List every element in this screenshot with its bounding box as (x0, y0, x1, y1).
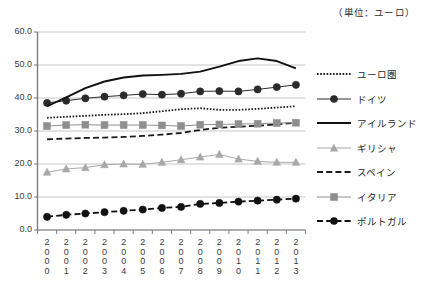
x-axis-tick-label: 2 0 0 6 (155, 238, 169, 276)
x-axis-tick-label: 2 0 0 0 (40, 238, 54, 276)
data-point-marker (177, 90, 184, 97)
series-3 (43, 150, 299, 175)
data-point-marker (82, 95, 89, 102)
data-point-marker (101, 122, 108, 129)
line-circle-key (316, 92, 352, 106)
data-point-marker (158, 204, 165, 211)
data-point-marker (159, 122, 166, 129)
data-point-marker (216, 150, 224, 157)
x-axis-tick-label: 2 0 1 1 (251, 238, 265, 276)
x-axis-tick-label: 2 0 0 5 (136, 238, 150, 276)
y-axis-tick-label: 20.0 (2, 158, 32, 168)
x-axis-tick-label: 2 0 0 2 (78, 238, 92, 276)
data-point-marker (293, 119, 300, 126)
x-axis-tick-label: 2 0 0 3 (98, 238, 112, 276)
data-point-marker (292, 195, 299, 202)
data-point-marker (120, 92, 127, 99)
thick-solid-line-key (316, 116, 352, 130)
gray-line-square-key (316, 190, 352, 204)
data-point-marker (235, 121, 242, 128)
data-point-marker (120, 160, 128, 167)
x-axis-tick-label: 2 0 0 1 (59, 238, 73, 276)
data-point-marker (44, 123, 51, 130)
data-point-marker (273, 196, 280, 203)
data-point-marker (63, 211, 70, 218)
legend-item[interactable]: アイルランド (316, 111, 421, 136)
data-point-marker (235, 198, 242, 205)
legend-item[interactable]: ギリシャ (316, 136, 421, 161)
data-point-marker (254, 86, 261, 93)
legend-item[interactable]: ドイツ (316, 87, 421, 112)
x-axis-tick-label: 2 0 1 0 (232, 238, 246, 276)
data-point-marker (82, 210, 89, 217)
legend-item-label: ユーロ圏 (357, 67, 397, 81)
data-point-marker (197, 121, 204, 128)
legend-item-label: ギリシャ (357, 141, 397, 155)
data-point-marker (178, 123, 185, 130)
legend-item[interactable]: ポルトガル (316, 209, 421, 234)
chart-legend: ユーロ圏ドイツアイルランドギリシャスペインイタリアポルトガル (316, 62, 421, 234)
data-point-marker (254, 197, 261, 204)
data-point-marker (120, 207, 127, 214)
x-axis-tick-label: 2 0 1 3 (289, 238, 303, 276)
data-point-marker (101, 93, 108, 100)
data-point-marker (292, 81, 299, 88)
data-point-marker (120, 122, 127, 129)
series-0 (47, 106, 296, 118)
data-point-marker (177, 203, 184, 210)
x-axis-tick-label: 2 0 0 9 (212, 238, 226, 276)
data-point-marker (63, 122, 70, 129)
series-1 (43, 81, 299, 106)
gray-line-triangle-key (316, 141, 352, 155)
legend-item-label: スペイン (357, 165, 396, 179)
data-point-marker (273, 84, 280, 91)
legend-item[interactable]: ユーロ圏 (316, 62, 421, 87)
data-point-marker (216, 199, 223, 206)
y-axis-tick-label: 40.0 (2, 92, 32, 102)
data-point-marker (254, 120, 261, 127)
x-axis-tick-label: 2 0 0 8 (193, 238, 207, 276)
data-point-marker (82, 121, 89, 128)
legend-item-label: イタリア (357, 190, 397, 204)
legend-item-label: アイルランド (357, 116, 418, 130)
legend-item[interactable]: スペイン (316, 160, 421, 185)
legend-item[interactable]: イタリア (316, 185, 421, 210)
data-point-marker (101, 209, 108, 216)
legend-item-label: ポルトガル (357, 214, 408, 228)
series-line (47, 106, 296, 118)
series-5 (44, 119, 300, 129)
series-layer (43, 58, 299, 220)
data-point-marker (216, 121, 223, 128)
data-point-marker (216, 87, 223, 94)
data-point-marker (158, 91, 165, 98)
data-point-marker (197, 200, 204, 207)
gridlines (38, 32, 306, 230)
data-point-marker (197, 88, 204, 95)
x-axis-tick-label: 2 0 1 2 (270, 238, 284, 276)
dashed-line-circle-key (316, 214, 352, 228)
data-point-marker (139, 122, 146, 129)
data-point-marker (43, 213, 50, 220)
y-axis-tick-label: 60.0 (2, 26, 32, 36)
data-point-marker (235, 88, 242, 95)
series-6 (43, 195, 299, 220)
y-axis-tick-label: 50.0 (2, 59, 32, 69)
data-point-marker (139, 206, 146, 213)
legend-item-label: ドイツ (357, 92, 387, 106)
y-axis-tick-label: 0.0 (2, 224, 32, 234)
y-axis-tick-label: 30.0 (2, 125, 32, 135)
data-point-marker (139, 90, 146, 97)
axis-ticks (34, 32, 306, 234)
dotted-line-key (316, 67, 352, 81)
x-axis-tick-label: 2 0 0 4 (117, 238, 131, 276)
data-point-marker (273, 120, 280, 127)
dashed-line-key (316, 165, 352, 179)
x-axis-tick-label: 2 0 0 7 (174, 238, 188, 276)
y-axis-tick-label: 10.0 (2, 191, 32, 201)
